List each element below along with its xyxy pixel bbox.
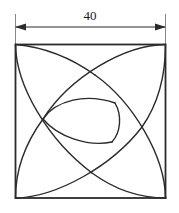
right-arrowhead-icon xyxy=(155,23,166,30)
swirl-arc-group xyxy=(16,45,167,199)
arc-bottom-left-continuation xyxy=(142,45,166,128)
arc-from-bottom-right-corner xyxy=(95,75,166,198)
inner-triangle-edge-right xyxy=(112,103,120,142)
dimension-label: 40 xyxy=(84,8,97,23)
figure-root: 40 xyxy=(0,0,179,213)
arc-top-right-continuation xyxy=(16,119,44,198)
inner-triangle-edge-bottom xyxy=(43,119,112,143)
outer-square xyxy=(16,45,166,199)
arc-bottom-right-continuation xyxy=(16,45,96,76)
geometry-diagram: 40 xyxy=(0,0,179,213)
left-arrowhead-icon xyxy=(15,23,26,30)
width-dimension-group: 40 xyxy=(15,8,166,44)
inner-triangle-edge-top xyxy=(43,98,115,119)
arc-top-left-continuation xyxy=(92,173,166,198)
